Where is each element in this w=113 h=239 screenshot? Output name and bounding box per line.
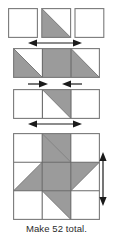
arrow-pair-outward-lower [26,119,84,129]
row-3-svg [13,89,100,119]
arrow-head-pointing-right [39,80,48,87]
row-1-three-squares [8,8,105,38]
arrow-head-right [73,120,82,127]
row-3-joined-strip [13,89,100,119]
arrow-head-up [99,152,106,161]
arrows-star-right [98,150,108,208]
quilt-diagram: Make 52 total. [0,0,113,239]
arrows-row2-top [26,38,84,48]
arrow-head-pointing-left [62,80,71,87]
arrow-pair-outward-top [26,38,84,48]
cell-2-solid-gray [42,49,71,78]
arrow-pair-inward [26,79,84,89]
arrows-row3-bottom [26,119,84,129]
pinwheel-star-block [13,133,100,220]
caption-make-total: Make 52 total. [0,223,113,234]
plain-square-right [75,9,104,38]
arrow-head-right [73,39,82,46]
arrow-pair-vertical-outward [98,150,108,208]
star-block-svg [13,133,100,220]
center-square [42,162,71,191]
row-2-joined-strip [13,48,100,78]
arrow-head-left [28,120,37,127]
row-1-svg [8,8,105,38]
arrow-head-down [99,197,106,206]
arrow-head-left [28,39,37,46]
row-2-svg [13,48,100,78]
arrows-row2-bottom [26,79,84,89]
plain-square-left [9,9,38,38]
